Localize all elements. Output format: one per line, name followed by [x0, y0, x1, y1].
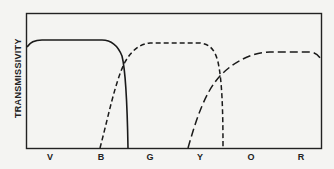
series-short-dash-curve	[100, 43, 223, 148]
series-long-dash-curve	[188, 52, 322, 148]
series-solid-curve	[27, 40, 128, 148]
x-tick-o: O	[247, 152, 254, 162]
x-tick-b: B	[98, 152, 105, 162]
x-tick-y: Y	[197, 152, 203, 162]
x-tick-g: G	[146, 152, 153, 162]
y-axis-label: TRANSMISSIVITY	[13, 38, 23, 118]
x-tick-v: V	[47, 152, 53, 162]
x-tick-r: R	[298, 152, 305, 162]
transmissivity-chart: TRANSMISSIVITY V B G Y O R	[0, 0, 334, 169]
plot-frame	[27, 14, 322, 149]
